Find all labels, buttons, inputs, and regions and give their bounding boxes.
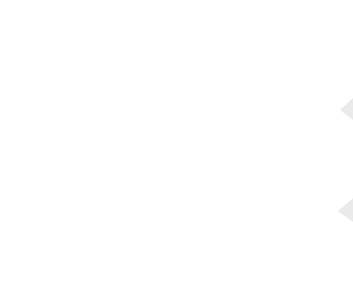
cell-r2c6[interactable]	[209, 91, 242, 123]
cell-r5c5[interactable]	[178, 188, 209, 218]
cell-r0c0[interactable]	[21, 26, 54, 59]
cell-letter	[306, 91, 334, 123]
cell-r2c4[interactable]	[147, 91, 178, 123]
cell-letter	[242, 91, 275, 123]
cell-letter	[21, 123, 54, 155]
page-edge-mark-lower	[338, 198, 353, 222]
cell-r1c0[interactable]	[21, 59, 54, 91]
cell-letter	[209, 251, 245, 285]
cell-letter	[0, 155, 21, 188]
cell-r4cm1[interactable]	[0, 155, 21, 188]
cell-letter	[115, 91, 147, 123]
cell-r0c3[interactable]	[119, 26, 149, 59]
cell-letter	[54, 155, 87, 188]
cell-r3c0[interactable]	[21, 123, 54, 155]
cell-letter	[147, 251, 178, 285]
cell-letter	[147, 155, 178, 188]
cell-letter	[21, 26, 54, 59]
cell-letter	[21, 59, 54, 91]
cell-letter	[178, 188, 209, 218]
crossword-grid	[0, 0, 353, 285]
cell-r7c3[interactable]	[115, 251, 147, 285]
cell-letter	[87, 26, 119, 59]
cell-r2c8[interactable]	[275, 91, 306, 123]
cell-r0c1[interactable]	[54, 26, 87, 59]
cell-r4c6[interactable]	[209, 155, 243, 188]
cell-r7c5[interactable]	[178, 251, 209, 285]
cell-r2c9[interactable]	[306, 91, 334, 123]
cell-letter	[147, 91, 178, 123]
cell-r5c0[interactable]	[21, 188, 54, 222]
cell-letter	[178, 91, 209, 123]
page-edge-mark-upper	[340, 98, 353, 120]
cell-letter	[21, 91, 54, 123]
cell-letter	[115, 251, 147, 285]
cell-r4c4[interactable]	[147, 155, 178, 188]
cell-r2c3[interactable]	[115, 91, 147, 123]
cell-r4c2[interactable]	[87, 155, 115, 188]
cell-letter	[209, 155, 243, 188]
cell-r2c7[interactable]	[242, 91, 275, 123]
cell-r6c5[interactable]	[178, 218, 209, 251]
crossword-puzzle	[0, 0, 353, 285]
cell-letter	[209, 91, 242, 123]
cell-letter	[178, 155, 209, 188]
cell-r4c3[interactable]	[115, 155, 147, 188]
cell-letter	[149, 26, 180, 59]
cell-r0c2[interactable]	[87, 26, 119, 59]
cell-r4c1[interactable]	[54, 155, 87, 188]
cell-r2c5[interactable]	[178, 91, 209, 123]
cell-r0c4[interactable]	[149, 26, 180, 59]
cell-r2c0[interactable]	[21, 91, 54, 123]
cell-letter	[178, 251, 209, 285]
cell-r7c4[interactable]	[147, 251, 178, 285]
cell-letter	[119, 26, 149, 59]
cell-letter	[21, 155, 54, 188]
cell-letter	[87, 155, 115, 188]
cell-letter	[54, 26, 87, 59]
cell-r4c0[interactable]	[21, 155, 54, 188]
cell-r4c5[interactable]	[178, 155, 209, 188]
cell-r7c6[interactable]	[209, 251, 245, 285]
cell-letter	[115, 155, 147, 188]
cell-letter	[21, 188, 54, 222]
cell-letter	[178, 218, 209, 251]
cell-letter	[275, 91, 306, 123]
